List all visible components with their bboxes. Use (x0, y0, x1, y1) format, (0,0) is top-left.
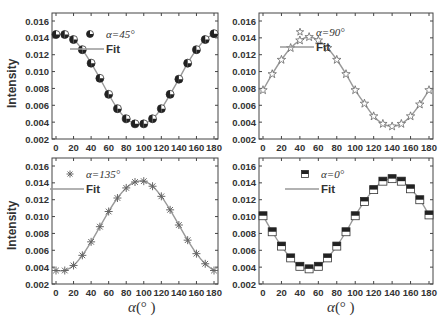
data-point (113, 194, 121, 202)
x-axis-label-right: α(° ) (327, 299, 355, 316)
data-point (70, 36, 78, 44)
data-point (296, 262, 304, 270)
data-point (87, 59, 95, 67)
data-point (388, 175, 396, 183)
data-point (184, 236, 192, 244)
legend-label: α=135° (86, 168, 121, 180)
x-tick-label: 60 (103, 287, 114, 298)
y-tick-label: 0.006 (25, 245, 49, 256)
data-point (157, 105, 165, 113)
x-tick-label: 100 (136, 287, 152, 298)
legend: α=135°Fit (50, 168, 121, 195)
x-tick-label: 20 (276, 142, 287, 153)
data-point (70, 261, 78, 269)
data-point (425, 86, 433, 94)
y-tick-label: 0.012 (232, 194, 256, 205)
x-tick-label: 120 (153, 142, 169, 153)
data-point (416, 196, 424, 204)
data-point (277, 242, 285, 250)
x-tick-label: 0 (260, 287, 265, 298)
y-tick-label: 0.010 (25, 66, 49, 77)
data-point (305, 33, 313, 41)
data-point (379, 177, 387, 185)
data-point (61, 267, 69, 275)
data-point (407, 185, 415, 193)
data-point (166, 206, 174, 214)
data-point (397, 119, 405, 127)
data-point (96, 74, 104, 82)
x-tick-label: 40 (295, 142, 306, 153)
y-tick-label: 0.008 (25, 228, 49, 239)
data-point (370, 186, 378, 194)
data-point (105, 208, 113, 216)
x-tick-label: 40 (86, 142, 97, 153)
data-point (175, 221, 183, 229)
x-tick-label: 80 (121, 287, 132, 298)
legend-fit-label: Fit (106, 43, 120, 55)
y-tick-label: 0.004 (232, 117, 256, 128)
data-point (314, 262, 322, 270)
data-point (131, 178, 139, 186)
x-tick-label: 160 (403, 142, 419, 153)
data-point (113, 105, 121, 113)
x-tick-label: 180 (421, 142, 437, 153)
data-point (425, 211, 433, 219)
data-point (122, 115, 130, 123)
legend-label: α=90° (316, 26, 345, 38)
x-tick-label: 160 (189, 142, 205, 153)
x-tick-label: 80 (331, 287, 342, 298)
plot-frame (259, 158, 433, 284)
legend-fit-label: Fit (86, 183, 100, 195)
figure: 0.0020.0040.0060.0080.0100.0120.0140.016… (0, 0, 442, 322)
x-tick-label: 180 (206, 142, 222, 153)
data-point (259, 86, 267, 94)
x-tick-label: 120 (153, 287, 169, 298)
data-point (287, 254, 295, 262)
data-point (122, 184, 130, 192)
data-point (157, 192, 165, 200)
y-tick-label: 0.008 (25, 83, 49, 94)
y-tick-label: 0.004 (25, 262, 49, 273)
panel-bottom-left: 0.0020.0040.0060.0080.0100.0120.0140.016… (25, 158, 222, 298)
x-tick-label: 180 (206, 287, 222, 298)
y-tick-label: 0.012 (232, 49, 256, 60)
data-point (201, 36, 209, 44)
x-tick-label: 60 (103, 142, 114, 153)
legend-label: α=45° (106, 28, 135, 40)
y-tick-label: 0.004 (25, 117, 49, 128)
x-tick-label: 160 (403, 287, 419, 298)
data-point (61, 30, 69, 38)
y-tick-label: 0.016 (25, 161, 49, 172)
y-tick-label: 0.004 (232, 262, 256, 273)
data-point (131, 120, 139, 128)
x-tick-label: 100 (347, 287, 363, 298)
panel-top-left: 0.0020.0040.0060.0080.0100.0120.0140.016… (25, 13, 222, 153)
x-tick-label: 100 (347, 142, 363, 153)
x-tick-label: 0 (53, 287, 58, 298)
y-tick-label: 0.016 (232, 161, 256, 172)
legend-label: α=0° (321, 168, 345, 180)
y-tick-label: 0.010 (25, 211, 49, 222)
panel-top-right: 0.0020.0040.0060.0080.0100.0120.0140.016… (232, 13, 437, 153)
x-tick-label: 120 (366, 287, 382, 298)
y-tick-label: 0.014 (232, 32, 256, 43)
y-tick-label: 0.016 (25, 16, 49, 27)
legend-fit-label: Fit (321, 183, 335, 195)
x-tick-label: 100 (136, 142, 152, 153)
x-tick-label: 20 (276, 287, 287, 298)
data-point (259, 212, 267, 220)
y-tick-label: 0.016 (232, 16, 256, 27)
x-tick-label: 40 (295, 287, 306, 298)
x-axis-label-left: α(° ) (128, 299, 156, 316)
y-tick-label: 0.002 (232, 134, 256, 145)
x-tick-label: 20 (68, 287, 79, 298)
y-tick-label: 0.012 (25, 49, 49, 60)
data-point (52, 30, 60, 38)
data-point (201, 260, 209, 268)
y-tick-label: 0.010 (232, 211, 256, 222)
data-point (379, 119, 387, 127)
data-point (140, 120, 148, 128)
y-tick-label: 0.008 (232, 228, 256, 239)
data-point (210, 30, 218, 38)
x-tick-label: 140 (171, 142, 187, 153)
